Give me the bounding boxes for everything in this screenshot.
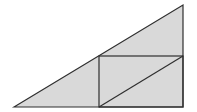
triangle-diagram bbox=[0, 0, 197, 112]
